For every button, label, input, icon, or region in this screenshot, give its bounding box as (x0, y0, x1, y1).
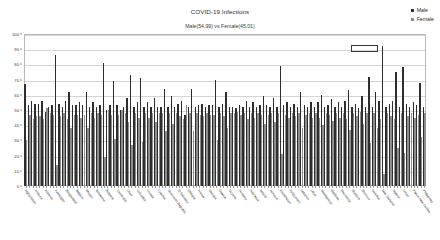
legend-item-female[interactable]: Female (411, 17, 434, 22)
chart-title: COVID-19 Infections (0, 8, 440, 15)
y-axis-tick-label: 40 (14, 123, 19, 128)
y-axis-tick-mark (20, 94, 22, 95)
y-axis-tick-label: 100 (12, 32, 19, 37)
chart-screenshot: COVID-19 Infections Male(54.99) vs Femal… (0, 0, 440, 240)
x-axis-labels: AfghanistanAndorraArmeniaAzerbaijanBangl… (24, 189, 426, 240)
chart-subtitle: Male(54.99) vs Female(45.01) (0, 23, 440, 29)
y-axis-tick-mark (20, 34, 22, 35)
chart-legend: Male Female (411, 8, 434, 22)
y-axis-tick-mark (20, 79, 22, 80)
y-axis-tick-label: 80 (14, 62, 19, 67)
y-axis-tick-mark (20, 49, 22, 50)
y-axis-tick-label: 50 (14, 108, 19, 113)
bar-male[interactable] (382, 46, 383, 186)
annotation-rectangle (351, 45, 378, 53)
y-axis-tick-mark (20, 110, 22, 111)
legend-swatch-female-icon (411, 18, 414, 21)
legend-item-male[interactable]: Male (411, 8, 434, 13)
y-axis-tick-label: 90 (14, 47, 19, 52)
legend-label-female: Female (417, 17, 434, 22)
legend-label-male: Male (417, 8, 428, 13)
x-axis-label-cell: Philippines (423, 189, 426, 240)
x-axis-label: Philippines (422, 189, 434, 204)
y-axis-tick-label: 10 (14, 168, 19, 173)
legend-swatch-male-icon (411, 9, 414, 12)
bars-layer (24, 34, 426, 186)
y-axis: 0102030405060708090100 (0, 34, 22, 186)
y-axis-tick-mark (20, 125, 22, 126)
y-axis-tick-mark (20, 170, 22, 171)
bar-group[interactable] (423, 34, 426, 186)
y-axis-tick-label: 70 (14, 77, 19, 82)
y-axis-tick-label: 0 (17, 184, 19, 189)
bar-female[interactable] (424, 113, 425, 186)
y-axis-tick-label: 60 (14, 92, 19, 97)
y-axis-tick-mark (20, 64, 22, 65)
y-axis-tick-label: 20 (14, 153, 19, 158)
y-axis-tick-mark (20, 140, 22, 141)
y-axis-tick-mark (20, 186, 22, 187)
y-axis-tick-label: 30 (14, 138, 19, 143)
y-axis-tick-mark (20, 155, 22, 156)
